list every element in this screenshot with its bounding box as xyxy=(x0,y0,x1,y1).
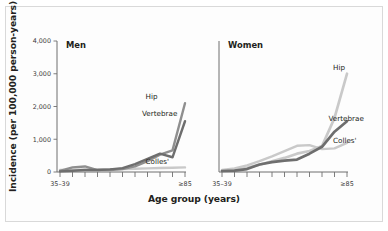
chart-svg: Incidence (per 100,000 person-years) Age… xyxy=(0,0,388,231)
figure-root: Incidence (per 100,000 person-years) Age… xyxy=(0,0,388,231)
panel-women: 35–39 ≥85 Women Hip Vertebrae Colles' xyxy=(212,40,364,188)
women-label-vertebrae: Vertebrae xyxy=(329,114,365,123)
x-axis-label: Age group (years) xyxy=(148,193,240,204)
women-series-colles xyxy=(222,143,347,170)
women-label-hip: Hip xyxy=(333,63,345,72)
y-axis-label: Incidence (per 100,000 person-years) xyxy=(7,1,18,192)
men-x-tick-label-last: ≥85 xyxy=(178,180,192,188)
panel-title-men: Men xyxy=(66,40,86,50)
men-x-tick-label-first: 35–39 xyxy=(50,180,69,188)
panel-men: 4,000 3,000 2,000 1,000 0 35–39 ≥85 xyxy=(33,37,192,188)
y-tick-label-4000: 4,000 xyxy=(33,37,51,45)
panel-title-women: Women xyxy=(228,40,263,50)
men-label-vertebrae: Vertebrae xyxy=(142,109,178,118)
men-y-ticks xyxy=(54,41,58,172)
women-label-colles: Colles' xyxy=(333,136,357,145)
women-x-ticks xyxy=(222,172,347,177)
y-tick-label-2000: 2,000 xyxy=(33,103,51,111)
women-series-vertebrae xyxy=(222,121,347,171)
men-x-ticks xyxy=(60,172,185,177)
y-tick-label-0: 0 xyxy=(47,168,51,176)
men-label-hip: Hip xyxy=(146,92,158,101)
y-tick-label-1000: 1,000 xyxy=(33,136,51,144)
women-x-tick-label-last: ≥85 xyxy=(340,180,354,188)
men-label-colles: Colles' xyxy=(146,157,170,166)
y-tick-label-3000: 3,000 xyxy=(33,70,51,78)
women-x-tick-label-first: 35–39 xyxy=(212,180,231,188)
